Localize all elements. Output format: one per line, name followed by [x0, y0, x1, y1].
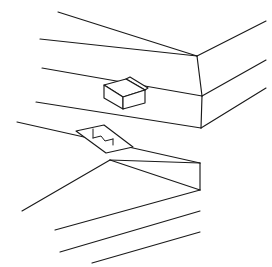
line-drawing-canvas: [0, 0, 272, 267]
upper-board-top-right-back-edge: [197, 21, 266, 56]
lower-board-top-front-left-edge: [22, 160, 110, 211]
upper-board-corner-vertical-edge: [201, 96, 202, 128]
upper-board-lower-right-edge: [201, 88, 266, 128]
mortise-slot: [76, 125, 133, 153]
upper-board-top-back-edge: [58, 12, 197, 56]
upper-board-corner-mitre-edge: [197, 56, 202, 96]
lower-board-front-face-edge: [110, 160, 200, 190]
tenon-key-block: [104, 77, 148, 109]
lower-board-bottom-edge-lowest: [92, 232, 200, 263]
upper-board-bevel-right-edge: [202, 60, 266, 96]
upper-board: [36, 12, 266, 128]
mortise-slot-outline: [76, 125, 133, 153]
technical-drawing-figure: [0, 0, 272, 267]
lower-board-front-left-lower-edge: [55, 190, 200, 230]
lower-board-bottom-edge-left: [60, 211, 200, 252]
upper-board-top-front-edge: [40, 39, 197, 56]
